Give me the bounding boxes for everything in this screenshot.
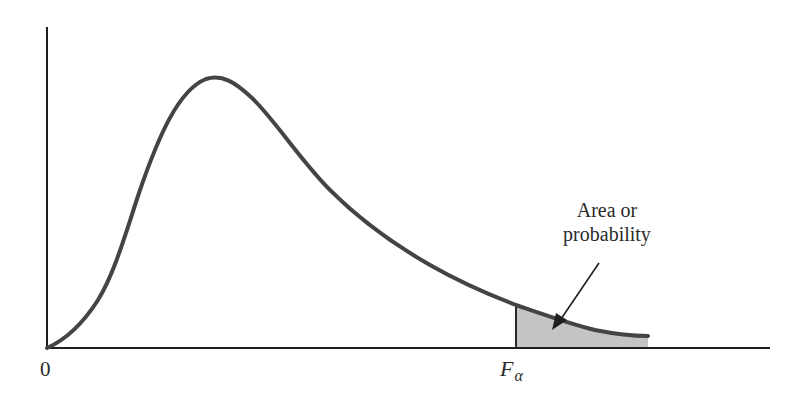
- annotation-arrow-line: [561, 263, 599, 319]
- x-axis-origin-label: 0: [40, 357, 51, 382]
- critical-value-label: Fα: [500, 356, 522, 382]
- annotation-line-1: Area or: [547, 198, 667, 222]
- critical-value-main: F: [500, 356, 513, 381]
- f-distribution-diagram: [0, 0, 798, 407]
- annotation-line-2: probability: [547, 222, 667, 246]
- critical-value-subscript: α: [514, 367, 522, 384]
- area-annotation: Area or probability: [547, 198, 667, 246]
